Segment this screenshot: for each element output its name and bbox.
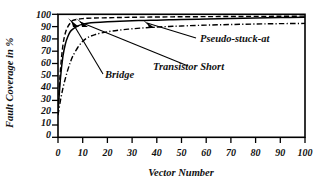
x-axis-title: Vector Number (148, 167, 215, 178)
y-tick-label: 20 (40, 105, 51, 116)
x-tick-label: 20 (101, 147, 112, 158)
y-tick-label: 10 (41, 117, 51, 128)
y-tick-label: 70 (41, 45, 51, 56)
x-tick-label: 100 (298, 147, 313, 158)
y-tick-label: 100 (36, 9, 51, 20)
y-tick-label: 0 (46, 129, 51, 140)
series-label-pseudo-stuck-at: Pseudo-stuck-at (200, 33, 270, 44)
x-tick-label: 80 (251, 147, 261, 158)
x-tick-label: 90 (275, 147, 285, 158)
x-tick-label: 60 (201, 147, 211, 158)
y-tick-label: 90 (41, 21, 51, 32)
y-tick-label: 60 (41, 57, 51, 68)
x-tick-label: 50 (177, 147, 187, 158)
x-tick-label: 0 (56, 147, 61, 158)
y-tick-label: 80 (41, 33, 51, 44)
y-tick-label: 50 (41, 69, 51, 80)
y-tick-label: 40 (40, 81, 51, 92)
x-tick-label: 70 (226, 147, 236, 158)
x-tick-label: 10 (78, 147, 88, 158)
y-tick-label: 30 (40, 93, 51, 104)
series-label-bridge: Bridge (104, 69, 135, 80)
x-tick-label: 30 (126, 147, 137, 158)
series-label-transistor-short: Transistor Short (153, 61, 225, 72)
y-axis-title: Fault Coverage in % (4, 38, 15, 129)
fault-coverage-chart: Fault Coverage in % 100 90 80 70 60 50 4… (0, 0, 324, 187)
x-tick-label: 40 (151, 147, 162, 158)
